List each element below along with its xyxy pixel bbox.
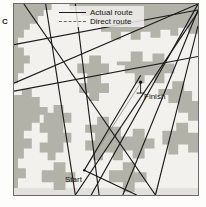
finish-label: Finish [144, 93, 165, 101]
legend-label-direct-route: Direct route [90, 16, 131, 27]
legend-swatch-direct-route-icon [59, 21, 86, 22]
map-canvas [14, 4, 198, 195]
legend: Actual route Direct route [59, 6, 144, 27]
legend-swatch-actual-route-icon [59, 12, 86, 13]
legend-item-direct-route: Direct route [59, 17, 144, 27]
start-marker [83, 169, 85, 171]
map-frame: Actual route Direct route Finish Start [13, 3, 199, 196]
start-label: Start [65, 176, 82, 184]
panel-letter: C [2, 18, 8, 26]
figure-panel-c: C [0, 0, 206, 207]
